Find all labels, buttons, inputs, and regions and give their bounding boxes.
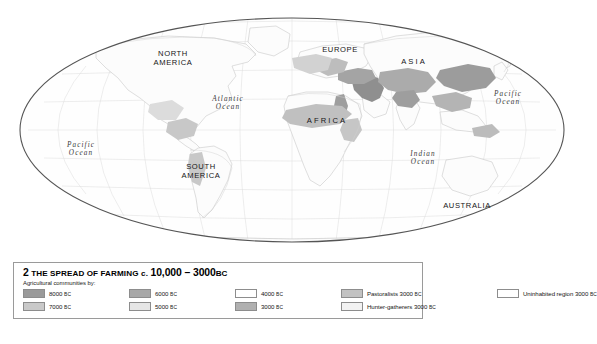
legend-5000bc-era: BC	[170, 305, 177, 310]
legend-title-circa: c.	[141, 269, 148, 278]
map-legend: 2 THE SPREAD OF FARMING c. 10,000 – 3000…	[13, 262, 423, 319]
world-map-svg	[0, 0, 585, 258]
legend-3000bc[interactable]: 3000 BC	[235, 302, 283, 311]
legend-uninhabited-era: BC	[590, 292, 597, 297]
legend-3000bc-label: 3000 BC	[261, 303, 283, 310]
legend-3000bc-era: BC	[276, 305, 283, 310]
legend-hunter-gatherers-swatch	[341, 302, 363, 311]
legend-5000bc-label: 5000 BC	[155, 303, 177, 310]
legend-5000bc-swatch	[129, 302, 151, 311]
legend-uninhabited[interactable]: Uninhabited region 3000 BC	[497, 289, 597, 298]
legend-8000bc[interactable]: 8000 BC	[23, 289, 71, 298]
legend-subtitle: Agricultural communities by:	[23, 280, 415, 286]
legend-hunter-gatherers-era: BC	[429, 305, 436, 310]
legend-title-era: BC	[216, 269, 228, 278]
legend-hunter-gatherers[interactable]: Hunter-gatherers 3000 BC	[341, 302, 436, 311]
legend-pastoralists[interactable]: Pastoralists 3000 BC	[341, 289, 422, 298]
legend-8000bc-swatch	[23, 289, 45, 298]
legend-pastoralists-label: Pastoralists 3000 BC	[367, 290, 422, 297]
legend-8000bc-label: 8000 BC	[49, 290, 71, 297]
legend-6000bc-swatch	[129, 289, 151, 298]
legend-7000bc-swatch	[23, 302, 45, 311]
legend-4000bc-swatch	[235, 289, 257, 298]
legend-8000bc-era: BC	[64, 292, 71, 297]
legend-6000bc-label: 6000 BC	[155, 290, 177, 297]
legend-6000bc-era: BC	[170, 292, 177, 297]
legend-4000bc-era: BC	[276, 292, 283, 297]
legend-title-range: 10,000 – 3000	[151, 267, 216, 278]
legend-pastoralists-swatch	[341, 289, 363, 298]
legend-4000bc[interactable]: 4000 BC	[235, 289, 283, 298]
legend-7000bc-label: 7000 BC	[49, 303, 71, 310]
legend-number: 2	[23, 267, 29, 278]
legend-uninhabited-label: Uninhabited region 3000 BC	[523, 290, 597, 297]
legend-4000bc-label: 4000 BC	[261, 290, 283, 297]
legend-7000bc-era: BC	[64, 305, 71, 310]
world-map[interactable]: NORTHAMERICA SOUTHAMERICA EUROPE ASIA AF…	[0, 0, 585, 258]
legend-hunter-gatherers-label: Hunter-gatherers 3000 BC	[367, 303, 436, 310]
legend-5000bc[interactable]: 5000 BC	[129, 302, 177, 311]
legend-title-caps: THE SPREAD OF FARMING	[31, 269, 138, 278]
legend-uninhabited-swatch	[497, 289, 519, 298]
legend-entries: 8000 BC7000 BC6000 BC5000 BC4000 BC3000 …	[23, 289, 415, 315]
legend-pastoralists-era: BC	[415, 292, 422, 297]
legend-7000bc[interactable]: 7000 BC	[23, 302, 71, 311]
legend-3000bc-swatch	[235, 302, 257, 311]
legend-title: 2 THE SPREAD OF FARMING c. 10,000 – 3000…	[23, 268, 415, 279]
legend-6000bc[interactable]: 6000 BC	[129, 289, 177, 298]
